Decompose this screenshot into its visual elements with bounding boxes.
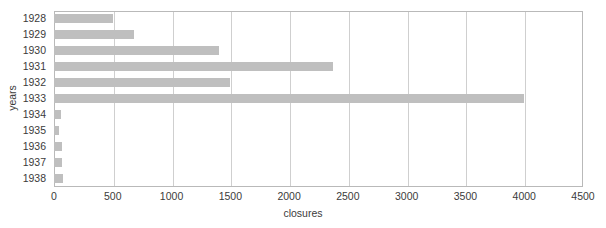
y-tick-label-1929: 1929: [0, 28, 46, 40]
x-tick-label-2000: 2000: [277, 190, 300, 202]
bar-1928: [54, 14, 113, 23]
bar-chart: 1928192919301931193219331934193519361937…: [0, 0, 606, 228]
x-tick-label-3500: 3500: [454, 190, 477, 202]
bar-1930: [54, 46, 219, 55]
bar-1931: [54, 62, 333, 71]
x-axis-title: closures: [0, 207, 606, 219]
bar-1938: [54, 174, 63, 183]
x-tick-label-500: 500: [104, 190, 122, 202]
bar-1935: [54, 126, 59, 135]
bar-1937: [54, 158, 62, 167]
x-tick-label-3000: 3000: [395, 190, 418, 202]
y-tick-label-1930: 1930: [0, 44, 46, 56]
y-tick-label-1936: 1936: [0, 140, 46, 152]
bar-1934: [54, 110, 61, 119]
x-tick-label-4000: 4000: [513, 190, 536, 202]
bar-1933: [54, 94, 524, 103]
x-tick-label-4500: 4500: [571, 190, 594, 202]
bar-1932: [54, 78, 230, 87]
bar-1936: [54, 142, 62, 151]
bars-layer: [54, 11, 583, 187]
y-tick-label-1938: 1938: [0, 172, 46, 184]
y-tick-label-1928: 1928: [0, 12, 46, 24]
x-tick-label-1000: 1000: [160, 190, 183, 202]
bar-1929: [54, 30, 134, 39]
x-tick-label-2500: 2500: [336, 190, 359, 202]
y-axis-title: years: [6, 70, 18, 126]
x-tick-label-0: 0: [51, 190, 57, 202]
x-axis-tick-labels: 050010001500200025003000350040004500: [0, 190, 606, 206]
y-tick-label-1937: 1937: [0, 156, 46, 168]
x-tick-label-1500: 1500: [219, 190, 242, 202]
